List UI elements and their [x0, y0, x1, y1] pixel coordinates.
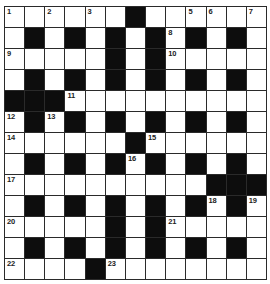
grid-cell[interactable]: [106, 91, 125, 111]
grid-cell[interactable]: 16: [126, 154, 145, 174]
grid-cell[interactable]: 21: [166, 217, 185, 237]
grid-cell[interactable]: [25, 259, 44, 279]
grid-cell[interactable]: 14: [5, 133, 24, 153]
grid-cell[interactable]: [25, 217, 44, 237]
grid-cell[interactable]: [65, 259, 84, 279]
grid-cell[interactable]: 11: [65, 91, 84, 111]
grid-cell[interactable]: 3: [86, 7, 105, 27]
grid-cell[interactable]: [86, 175, 105, 195]
grid-cell[interactable]: [25, 7, 44, 27]
grid-cell[interactable]: [247, 112, 266, 132]
grid-cell[interactable]: [45, 238, 64, 258]
grid-cell[interactable]: 19: [247, 196, 266, 216]
grid-cell[interactable]: [65, 175, 84, 195]
grid-cell[interactable]: [247, 70, 266, 90]
grid-cell[interactable]: [207, 133, 226, 153]
grid-cell[interactable]: [166, 259, 185, 279]
grid-cell[interactable]: 6: [207, 7, 226, 27]
grid-cell[interactable]: [65, 7, 84, 27]
grid-cell[interactable]: 20: [5, 217, 24, 237]
grid-cell[interactable]: [166, 238, 185, 258]
grid-cell[interactable]: [166, 70, 185, 90]
grid-cell[interactable]: [166, 196, 185, 216]
grid-cell[interactable]: [247, 91, 266, 111]
grid-cell[interactable]: [186, 175, 205, 195]
grid-cell[interactable]: [45, 259, 64, 279]
grid-cell[interactable]: [247, 259, 266, 279]
grid-cell[interactable]: [207, 238, 226, 258]
grid-cell[interactable]: [247, 49, 266, 69]
grid-cell[interactable]: 23: [106, 259, 125, 279]
grid-cell[interactable]: [126, 259, 145, 279]
grid-cell[interactable]: [25, 49, 44, 69]
grid-cell[interactable]: [207, 70, 226, 90]
grid-cell[interactable]: 9: [5, 49, 24, 69]
grid-cell[interactable]: [166, 154, 185, 174]
grid-cell[interactable]: [166, 91, 185, 111]
grid-cell[interactable]: 10: [166, 49, 185, 69]
grid-cell[interactable]: 2: [45, 7, 64, 27]
grid-cell[interactable]: [207, 154, 226, 174]
grid-cell[interactable]: [247, 133, 266, 153]
grid-cell[interactable]: [65, 217, 84, 237]
grid-cell[interactable]: [186, 259, 205, 279]
grid-cell[interactable]: [207, 28, 226, 48]
grid-cell[interactable]: [126, 112, 145, 132]
grid-cell[interactable]: [86, 49, 105, 69]
grid-cell[interactable]: [65, 49, 84, 69]
grid-cell[interactable]: [45, 175, 64, 195]
grid-cell[interactable]: [45, 28, 64, 48]
grid-cell[interactable]: [106, 7, 125, 27]
grid-cell[interactable]: [227, 133, 246, 153]
grid-cell[interactable]: 12: [5, 112, 24, 132]
grid-cell[interactable]: [86, 112, 105, 132]
grid-cell[interactable]: [227, 49, 246, 69]
grid-cell[interactable]: [86, 91, 105, 111]
grid-cell[interactable]: [166, 133, 185, 153]
grid-cell[interactable]: 13: [45, 112, 64, 132]
grid-cell[interactable]: [126, 217, 145, 237]
grid-cell[interactable]: [186, 91, 205, 111]
grid-cell[interactable]: [86, 70, 105, 90]
grid-cell[interactable]: [186, 49, 205, 69]
grid-cell[interactable]: [166, 112, 185, 132]
grid-cell[interactable]: [166, 7, 185, 27]
grid-cell[interactable]: [5, 28, 24, 48]
grid-cell[interactable]: [186, 133, 205, 153]
grid-cell[interactable]: [207, 217, 226, 237]
grid-cell[interactable]: 17: [5, 175, 24, 195]
grid-cell[interactable]: [146, 91, 165, 111]
grid-cell[interactable]: 18: [207, 196, 226, 216]
grid-cell[interactable]: 8: [166, 28, 185, 48]
grid-cell[interactable]: [5, 196, 24, 216]
grid-cell[interactable]: [207, 112, 226, 132]
grid-cell[interactable]: 7: [247, 7, 266, 27]
grid-cell[interactable]: [45, 133, 64, 153]
grid-cell[interactable]: [86, 238, 105, 258]
grid-cell[interactable]: [186, 217, 205, 237]
grid-cell[interactable]: 15: [146, 133, 165, 153]
grid-cell[interactable]: [126, 49, 145, 69]
grid-cell[interactable]: [45, 217, 64, 237]
grid-cell[interactable]: [126, 91, 145, 111]
grid-cell[interactable]: [207, 49, 226, 69]
grid-cell[interactable]: [106, 133, 125, 153]
grid-cell[interactable]: [86, 196, 105, 216]
grid-cell[interactable]: [146, 175, 165, 195]
grid-cell[interactable]: 1: [5, 7, 24, 27]
grid-cell[interactable]: [126, 238, 145, 258]
grid-cell[interactable]: [126, 196, 145, 216]
grid-cell[interactable]: [45, 49, 64, 69]
grid-cell[interactable]: [45, 196, 64, 216]
grid-cell[interactable]: [126, 70, 145, 90]
grid-cell[interactable]: [45, 70, 64, 90]
grid-cell[interactable]: [5, 70, 24, 90]
grid-cell[interactable]: [45, 154, 64, 174]
grid-cell[interactable]: [86, 154, 105, 174]
grid-cell[interactable]: 22: [5, 259, 24, 279]
grid-cell[interactable]: [227, 91, 246, 111]
grid-cell[interactable]: [166, 175, 185, 195]
grid-cell[interactable]: [65, 133, 84, 153]
grid-cell[interactable]: [227, 217, 246, 237]
grid-cell[interactable]: [5, 154, 24, 174]
